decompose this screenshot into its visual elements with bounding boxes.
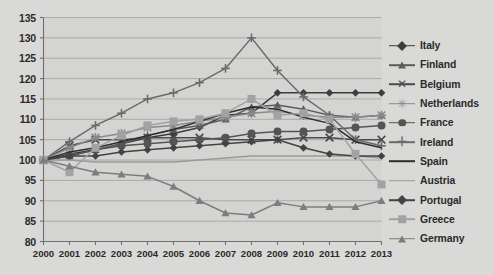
legend-key-icon — [389, 233, 415, 245]
legend-item-portugal[interactable]: Portugal — [389, 190, 493, 209]
legend-key-icon — [389, 175, 415, 187]
legend-item-germany[interactable]: Germany — [389, 229, 493, 248]
legend-item-ireland[interactable]: ＋Ireland — [389, 132, 493, 151]
legend-label: France — [420, 117, 453, 128]
x-axis-tick-label: 2009 — [267, 248, 288, 259]
x-axis-tick-label: 2001 — [59, 248, 80, 259]
legend-label: Germany — [420, 233, 464, 244]
legend-label: Greece — [420, 214, 455, 225]
x-axis-tick-label: 2006 — [189, 248, 210, 259]
legend-key-icon — [389, 40, 415, 52]
legend-marker-star-icon: ✳ — [397, 99, 407, 108]
legend-item-finland[interactable]: Finland — [389, 55, 493, 74]
x-axis-tick-label: 2002 — [85, 248, 106, 259]
legend-item-greece[interactable]: Greece — [389, 210, 493, 229]
legend-key-icon — [389, 194, 415, 206]
legend-key-icon: ✳ — [389, 98, 415, 110]
legend-key-icon — [389, 213, 415, 225]
legend-item-austria[interactable]: Austria — [389, 171, 493, 190]
x-axis-tick-label: 2004 — [137, 248, 158, 259]
x-axis-tick-label: 2008 — [241, 248, 262, 259]
legend-marker-diamond-icon — [397, 41, 407, 51]
legend-item-netherlands[interactable]: ✳Netherlands — [389, 94, 493, 113]
chart-legend: ItalyFinland✕Belgium✳NetherlandsFrance＋I… — [389, 36, 493, 248]
x-axis-tick-label: 2007 — [215, 248, 236, 259]
x-axis-tick-label: 2011 — [319, 248, 340, 259]
legend-key-icon: ✕ — [389, 78, 415, 90]
legend-marker-square-icon — [398, 216, 406, 224]
legend-item-france[interactable]: France — [389, 113, 493, 132]
line-chart: 80859095100105110115120125130135 2000200… — [0, 0, 494, 275]
legend-line — [389, 161, 415, 163]
legend-marker-circle-icon — [398, 119, 406, 127]
legend-marker-plus-icon: ＋ — [396, 138, 408, 147]
legend-item-spain[interactable]: Spain — [389, 152, 493, 171]
legend-item-italy[interactable]: Italy — [389, 36, 493, 55]
legend-item-belgium[interactable]: ✕Belgium — [389, 75, 493, 94]
legend-marker-diamond-icon — [397, 195, 407, 205]
legend-label: Ireland — [420, 137, 453, 148]
legend-label: Spain — [420, 156, 448, 167]
x-axis-tick-label: 2010 — [293, 248, 314, 259]
legend-label: Portugal — [420, 195, 461, 206]
legend-marker-triangle-icon — [398, 235, 406, 242]
legend-label: Italy — [420, 40, 440, 51]
legend-label: Finland — [420, 59, 456, 70]
legend-label: Austria — [420, 175, 455, 186]
legend-key-icon — [389, 59, 415, 71]
legend-line — [389, 180, 415, 182]
legend-label: Belgium — [420, 79, 460, 90]
legend-key-icon — [389, 117, 415, 129]
x-axis-tick-label: 2012 — [345, 248, 366, 259]
x-axis-tick-label: 2013 — [371, 248, 392, 259]
x-axis-tick-label: 2005 — [163, 248, 184, 259]
legend-marker-triangle-icon — [398, 61, 406, 68]
x-axis-tick-label: 2000 — [33, 248, 54, 259]
legend-key-icon: ＋ — [389, 136, 415, 148]
x-axis-tick-label: 2003 — [111, 248, 132, 259]
legend-label: Netherlands — [420, 98, 479, 109]
legend-marker-x-icon: ✕ — [397, 80, 407, 89]
legend-key-icon — [389, 155, 415, 167]
